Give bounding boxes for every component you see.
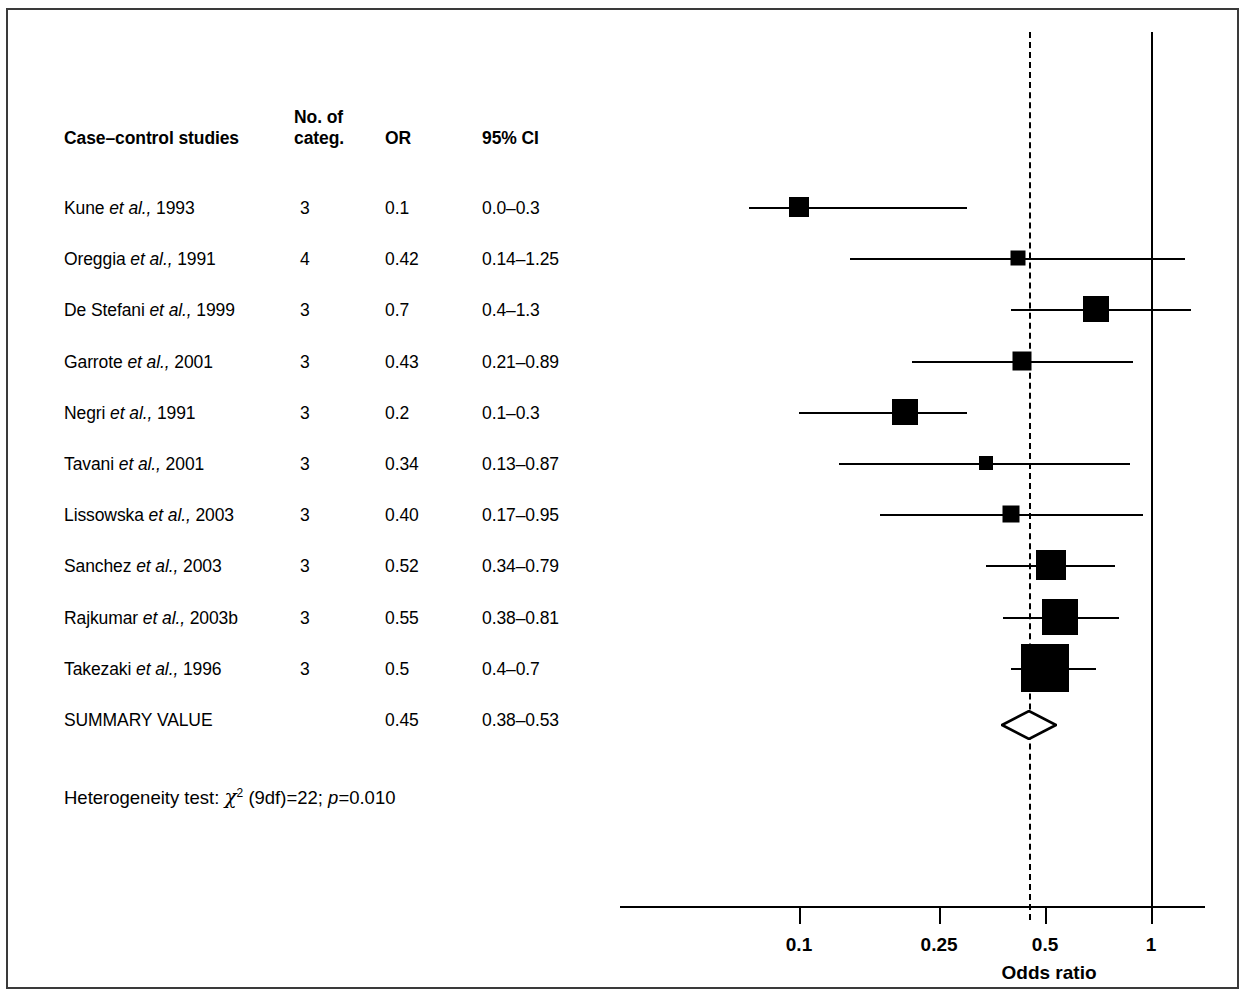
confidence-interval-line (799, 412, 967, 414)
study-point-marker (1011, 251, 1026, 266)
x-axis-tick (799, 906, 801, 924)
figure-frame: Case–control studies No. ofcateg. OR 95%… (6, 8, 1239, 989)
x-axis-tick (939, 906, 941, 924)
plot-area: 0.10.250.51Odds ratio (8, 10, 1237, 987)
x-axis-tick-label: 1 (1146, 934, 1157, 956)
forest-plot-figure: Case–control studies No. ofcateg. OR 95%… (0, 0, 1247, 1007)
study-point-marker (1002, 506, 1019, 523)
study-point-marker (1083, 296, 1109, 322)
x-axis-tick (1045, 906, 1047, 924)
x-axis-tick (1151, 906, 1153, 924)
study-point-marker (1021, 644, 1069, 692)
x-axis-title: Odds ratio (1002, 962, 1097, 984)
x-axis-line (620, 906, 1205, 908)
summary-reference-line (1029, 32, 1031, 920)
confidence-interval-line (749, 207, 967, 209)
x-axis-tick-label: 0.5 (1032, 934, 1058, 956)
study-point-marker (1012, 351, 1031, 370)
study-point-marker (892, 399, 918, 425)
study-point-marker (979, 456, 993, 470)
null-effect-reference-line (1151, 32, 1153, 920)
study-point-marker (1036, 550, 1066, 580)
summary-diamond-marker (1001, 710, 1057, 740)
study-point-marker (1042, 599, 1078, 635)
x-axis-tick-label: 0.25 (921, 934, 958, 956)
x-axis-tick-label: 0.1 (786, 934, 812, 956)
study-point-marker (789, 197, 809, 217)
